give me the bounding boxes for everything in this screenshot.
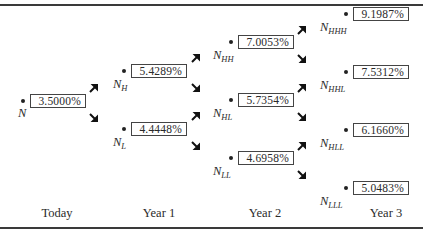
arrow-down-right-icon [297,54,307,64]
rate-box: 4.6958% [238,151,294,165]
node-label: NHH [213,49,234,66]
arrow-up-right-icon [297,25,307,35]
node-label: NH [113,78,127,95]
arrow-up-right-icon [297,83,307,93]
period-label-year-3: Year 3 [356,206,416,221]
node-label: NHLL [320,137,344,154]
node-dot [122,127,126,131]
rate-box: 5.0483% [353,181,409,195]
rate-box: 9.1987% [353,7,409,21]
node-dot [122,69,126,73]
node-label: NLLL [320,195,343,212]
node-label: NL [113,136,126,153]
arrow-up-right-icon [297,141,307,151]
arrow-down-right-icon [191,83,201,93]
period-label-year-2: Year 2 [235,206,295,221]
node-dot [344,12,348,16]
arrow-down-right-icon [191,141,201,151]
node-label: N [18,107,26,124]
period-label-year-1: Year 1 [129,206,189,221]
node-label: NHHL [320,79,345,96]
node-dot [344,186,348,190]
period-label-today: Today [27,206,87,221]
rate-box: 7.0053% [238,35,294,49]
node-dot [229,156,233,160]
rate-box: 7.5312% [353,65,409,79]
rate-box: 4.4448% [131,122,187,136]
node-dot [229,98,233,102]
arrow-down-right-icon [297,170,307,180]
node-label: NHL [213,107,232,124]
node-label: NLL [213,165,231,182]
arrow-up-right-icon [191,111,201,121]
arrow-up-right-icon [191,53,201,63]
node-dot [344,128,348,132]
bottom-rule [0,227,423,229]
rate-box: 6.1660% [353,123,409,137]
top-rule [0,4,423,6]
arrow-down-right-icon [89,113,99,123]
arrow-up-right-icon [89,83,99,93]
rate-box: 5.7354% [238,93,294,107]
node-dot [344,70,348,74]
node-label: NHHH [320,21,347,38]
node-dot [21,99,25,103]
rate-box: 3.5000% [30,94,86,108]
arrow-down-right-icon [297,112,307,122]
node-dot [229,40,233,44]
rate-box: 5.4289% [131,64,187,78]
